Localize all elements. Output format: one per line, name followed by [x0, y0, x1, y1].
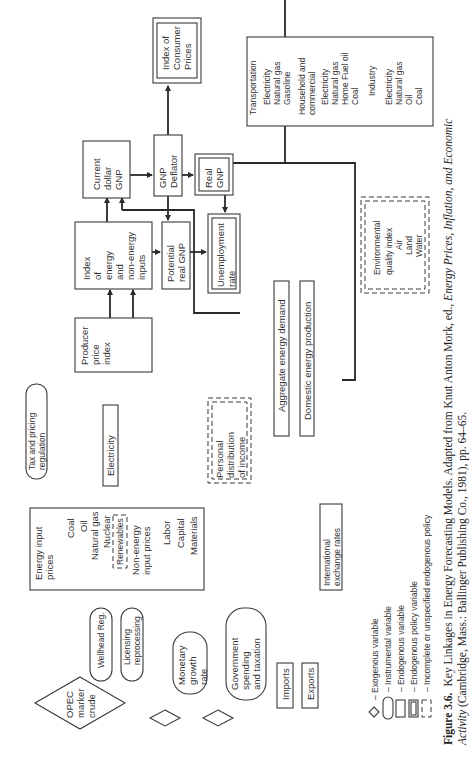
svg-text:Electricity: Electricity — [262, 68, 272, 105]
svg-text:Activity (Cambridge, Mass.: Ba: Activity (Cambridge, Mass.: Ballinger Pu… — [456, 412, 469, 746]
svg-text:Coal: Coal — [350, 87, 360, 105]
legend-diamond-icon — [369, 707, 379, 717]
svg-text:– Endogenous variable: – Endogenous variable — [396, 605, 406, 692]
svg-text:– Exogenous variable: – Exogenous variable — [370, 618, 380, 700]
svg-text:– Incomplete or unspecified en: – Incomplete or unspecified endogenous p… — [422, 514, 432, 692]
svg-text:quality index: quality index — [384, 227, 394, 275]
exogenous-diamond-2 — [203, 710, 233, 726]
node-monetary-growth-rate: Monetarygrowthrate — [173, 632, 209, 694]
svg-text:Natural gas: Natural gas — [394, 62, 404, 105]
svg-text:Electricity: Electricity — [105, 435, 116, 476]
node-aggregate-energy-demand: Aggregate energy demand — [274, 281, 289, 436]
legend: – Exogenous variable – Instrumental vari… — [369, 514, 432, 719]
legend-box-icon — [396, 700, 405, 717]
node-electricity: Electricity — [103, 405, 118, 486]
legend-dashed-box-icon — [422, 700, 431, 717]
svg-text:Exports: Exports — [305, 668, 316, 700]
node-opec-marker-crude: OPECmarkercrude — [35, 677, 125, 729]
node-unemployment-rate: Unemploymentrate — [208, 214, 240, 293]
svg-text:Renewables: Renewables — [115, 518, 125, 565]
node-gnp-deflator: GNPDeflator — [154, 135, 182, 196]
node-index-energy-inputs: Indexofenergyandnon-energyinputs — [75, 222, 152, 289]
legend-rounded-icon — [383, 697, 393, 719]
svg-text:Wellhead Reg.: Wellhead Reg. — [96, 612, 106, 668]
svg-text:Figure 3.6.Key Linkages in Ene: Figure 3.6.Key Linkages in Energy Foreca… — [442, 119, 455, 745]
svg-text:Aggregate energy demand: Aggregate energy demand — [276, 300, 287, 413]
svg-text:Air: Air — [394, 239, 404, 250]
svg-text:– Endogenous policy variable: – Endogenous policy variable — [409, 581, 419, 692]
node-energy-input-prices: Energy inputprices Coal Oil Natural gas … — [30, 508, 204, 590]
svg-text:RealGNP: RealGNP — [203, 167, 225, 188]
svg-text:Natural gas: Natural gas — [330, 62, 340, 105]
exogenous-diamond-1 — [150, 710, 180, 726]
node-licensing-reprocessing: Licensingreprocessing — [121, 608, 143, 681]
svg-text:Coal: Coal — [414, 87, 424, 105]
svg-text:Water: Water — [414, 234, 424, 257]
node-tax-pricing-regulation: Tax and pricingregulation — [26, 384, 47, 479]
node-index-consumer-prices: Index ofConsumerPrices — [153, 18, 201, 83]
node-real-gnp: RealGNP — [195, 154, 233, 195]
node-government-spending-taxation: Governmentspendingand taxation — [226, 608, 266, 700]
svg-text:Nuclear: Nuclear — [101, 515, 112, 548]
svg-text:Home Fuel oil: Home Fuel oil — [340, 52, 350, 105]
svg-text:Land: Land — [404, 236, 414, 255]
svg-text:Electricity: Electricity — [384, 68, 394, 105]
svg-text:Household and: Household and — [297, 58, 307, 115]
node-producer-price-index: Producerpriceindex — [75, 318, 152, 372]
svg-text:Potentialreal GNP: Potentialreal GNP — [165, 243, 187, 282]
node-international-exchange-rates: Internationalexchange rates — [320, 504, 342, 590]
svg-text:Transportation: Transportation — [248, 60, 258, 115]
svg-text:Electricity: Electricity — [320, 68, 330, 105]
svg-text:Industry: Industry — [367, 65, 377, 96]
node-wellhead-reg: Wellhead Reg. — [90, 608, 112, 681]
figure-caption: Figure 3.6.Key Linkages in Energy Foreca… — [442, 119, 469, 746]
svg-text:Imports: Imports — [280, 668, 291, 700]
svg-text:Capital: Capital — [175, 518, 186, 548]
node-exports: Exports — [302, 663, 318, 708]
svg-text:commercial: commercial — [307, 71, 317, 115]
node-sector-demand: Transportation Electricity Natural gas G… — [247, 37, 433, 126]
svg-text:Materials: Materials — [188, 516, 199, 555]
svg-text:Gasoline: Gasoline — [282, 71, 292, 105]
energy-forecasting-diagram: Index ofConsumerPrices CurrentdollarGNP … — [0, 0, 471, 759]
svg-text:Non-energyinput prices: Non-energyinput prices — [130, 525, 152, 575]
svg-text:Domestic energy production: Domestic energy production — [302, 302, 313, 420]
node-personal-distribution-income: Personaldistributionof income — [208, 398, 251, 483]
svg-text:Labor: Labor — [161, 521, 172, 545]
node-current-dollar-gnp: CurrentdollarGNP — [83, 141, 130, 198]
node-environmental-quality-index: Environmental quality index Air Land Wat… — [361, 197, 429, 293]
svg-text:Natural gas: Natural gas — [272, 62, 282, 105]
svg-text:Oil: Oil — [404, 95, 414, 106]
svg-text:Oil: Oil — [78, 520, 89, 532]
svg-text:Environmental: Environmental — [372, 221, 382, 275]
node-imports: Imports — [277, 663, 293, 708]
node-domestic-energy-production: Domestic energy production — [300, 281, 314, 436]
node-potential-real-gnp: Potentialreal GNP — [162, 222, 190, 289]
svg-text:Coal: Coal — [65, 518, 76, 538]
svg-text:– Instrumental variable: – Instrumental variable — [383, 606, 393, 692]
svg-text:Natural gas: Natural gas — [89, 511, 100, 560]
